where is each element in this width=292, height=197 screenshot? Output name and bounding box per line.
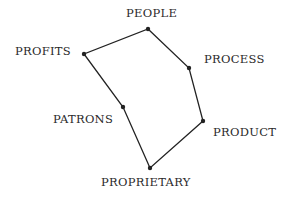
node-dot-patrons [121, 105, 125, 109]
diagram-lines [0, 0, 292, 197]
label-people: PEOPLE [126, 8, 177, 20]
label-proprietary: PROPRIETARY [101, 177, 191, 189]
node-dot-proprietary [148, 166, 152, 170]
cycle-outline [84, 29, 203, 168]
diagram-canvas: PEOPLE PROCESS PRODUCT PROPRIETARY PATRO… [0, 0, 292, 197]
node-dot-process [187, 66, 191, 70]
label-profits: PROFITS [15, 46, 71, 58]
node-dot-profits [82, 52, 86, 56]
node-dot-product [201, 119, 205, 123]
label-product: PRODUCT [213, 127, 276, 139]
label-process: PROCESS [204, 54, 265, 66]
node-dot-people [146, 27, 150, 31]
label-patrons: PATRONS [53, 114, 113, 126]
